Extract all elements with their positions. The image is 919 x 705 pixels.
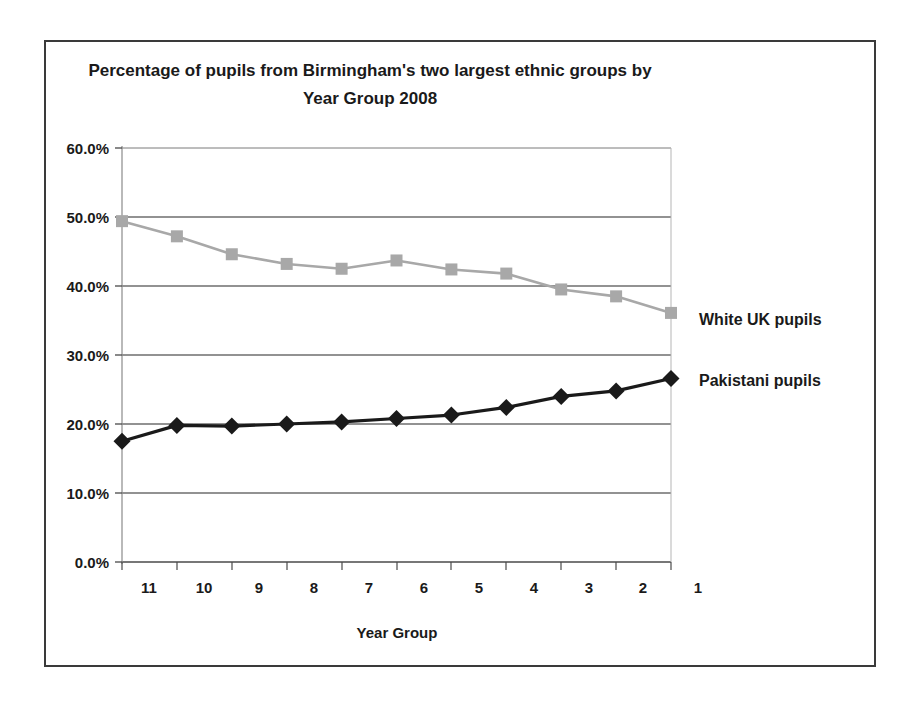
data-point-marker-square	[391, 254, 403, 266]
x-axis-title: Year Group	[357, 624, 438, 641]
chart-canvas: Percentage of pupils from Birmingham's t…	[0, 0, 919, 705]
chart-title: Percentage of pupils from Birmingham's t…	[88, 61, 652, 108]
data-point-marker-square	[445, 263, 457, 275]
data-point-marker-diamond	[278, 416, 295, 433]
chart-title-line-2: Year Group 2008	[303, 89, 437, 108]
data-point-marker-square	[500, 268, 512, 280]
y-tick-label-40: 40.0%	[66, 278, 109, 295]
series-labels: White UK pupils Pakistani pupils	[699, 311, 822, 389]
data-point-marker-square	[336, 263, 348, 275]
y-tick-label-0: 0.0%	[75, 554, 109, 571]
x-tick-label-3: 3	[585, 579, 593, 596]
y-tick-label-50: 50.0%	[66, 209, 109, 226]
series-white-uk-pupils	[116, 215, 677, 319]
x-tick-label-7: 7	[365, 579, 373, 596]
data-point-marker-square	[116, 215, 128, 227]
x-tick-label-11: 11	[141, 579, 157, 596]
data-point-marker-diamond	[168, 417, 185, 434]
y-tick-label-10: 10.0%	[66, 485, 109, 502]
series-line	[122, 378, 671, 441]
y-axis-tick-labels: 60.0% 50.0% 40.0% 30.0% 20.0% 10.0% 0.0%	[66, 140, 109, 571]
data-point-marker-square	[281, 258, 293, 270]
x-tick-label-2: 2	[639, 579, 647, 596]
x-tick-label-1: 1	[694, 579, 702, 596]
series-line	[122, 221, 671, 313]
data-point-marker-square	[665, 307, 677, 319]
chart-figure: Percentage of pupils from Birmingham's t…	[0, 0, 919, 705]
x-tick-label-5: 5	[475, 579, 483, 596]
x-tick-label-6: 6	[420, 579, 428, 596]
x-tick-label-4: 4	[530, 579, 539, 596]
data-point-marker-diamond	[608, 382, 625, 399]
x-tick-label-8: 8	[310, 579, 318, 596]
data-point-marker-diamond	[443, 407, 460, 424]
x-axis-ticks	[122, 562, 671, 570]
y-axis-ticks	[115, 148, 122, 562]
y-tick-label-60: 60.0%	[66, 140, 109, 157]
y-tick-label-30: 30.0%	[66, 347, 109, 364]
series-pakistani-pupils	[114, 370, 680, 450]
data-point-marker-diamond	[114, 433, 131, 450]
data-point-marker-square	[555, 283, 567, 295]
series-label-white-uk: White UK pupils	[699, 311, 822, 328]
data-point-marker-diamond	[663, 370, 680, 387]
data-point-marker-diamond	[223, 418, 240, 435]
data-point-marker-square	[171, 230, 183, 242]
y-tick-label-20: 20.0%	[66, 416, 109, 433]
x-tick-label-9: 9	[255, 579, 263, 596]
data-point-marker-diamond	[333, 413, 350, 430]
gridlines	[122, 148, 671, 562]
x-axis-tick-labels: 11 10 9 8 7 6 5 4 3 2 1	[141, 579, 702, 596]
data-point-marker-diamond	[553, 388, 570, 405]
series-label-pakistani: Pakistani pupils	[699, 372, 821, 389]
data-series-layer	[114, 215, 680, 450]
x-tick-label-10: 10	[196, 579, 213, 596]
chart-title-line-1: Percentage of pupils from Birmingham's t…	[88, 61, 652, 80]
data-point-marker-square	[610, 290, 622, 302]
data-point-marker-square	[226, 248, 238, 260]
data-point-marker-diamond	[498, 399, 515, 416]
